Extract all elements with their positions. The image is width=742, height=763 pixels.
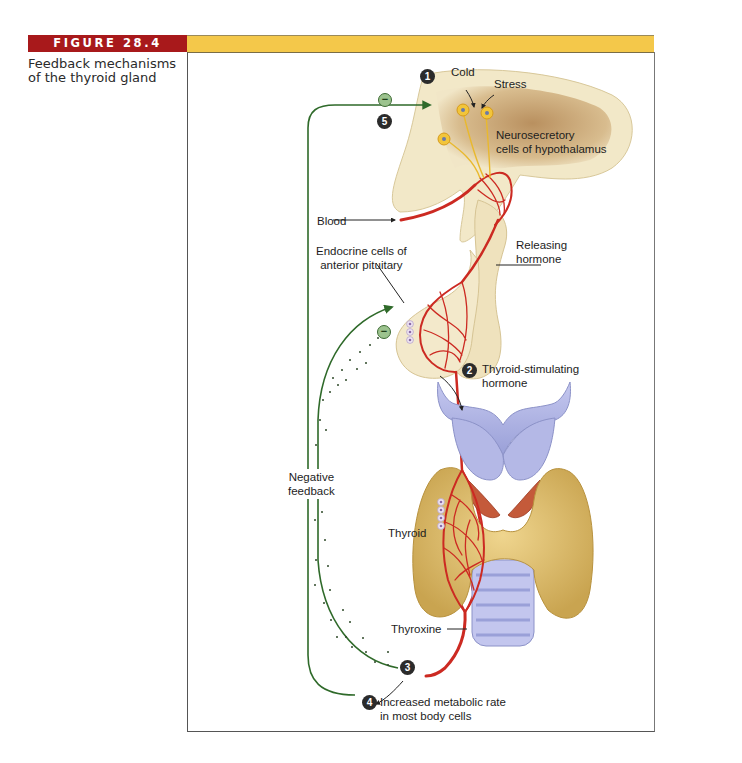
thyroid-feedback-illustration [0, 0, 742, 763]
label-thyroid: Thyroid [388, 526, 426, 540]
step-3-marker: 3 [400, 660, 415, 675]
inhibition-icon-hypothalamus: − [378, 93, 392, 107]
label-stress: Stress [494, 77, 527, 91]
label-endocrine-cells: Endocrine cells of anterior pituitary [316, 244, 407, 272]
label-negative-feedback: Negative feedback [288, 469, 335, 499]
label-thyroid-stimulating-hormone: Thyroid-stimulating hormone [482, 362, 579, 390]
step-4-marker: 4 [362, 695, 377, 710]
step-2-marker: 2 [462, 363, 477, 378]
label-increased-metabolic-rate: Increased metabolic rate in most body ce… [380, 695, 506, 723]
step-1-marker: 1 [420, 69, 435, 84]
label-blood: Blood [317, 214, 346, 228]
label-thyroxine: Thyroxine [391, 622, 442, 636]
hormone-particles [312, 337, 389, 666]
label-cold: Cold [451, 65, 475, 79]
label-releasing-hormone: Releasing hormone [508, 238, 567, 266]
step-5-marker: 5 [377, 114, 392, 129]
inhibition-icon-pituitary: − [377, 325, 391, 339]
label-neurosecretory-cells: Neurosecretory cells of hypothalamus [496, 128, 607, 156]
